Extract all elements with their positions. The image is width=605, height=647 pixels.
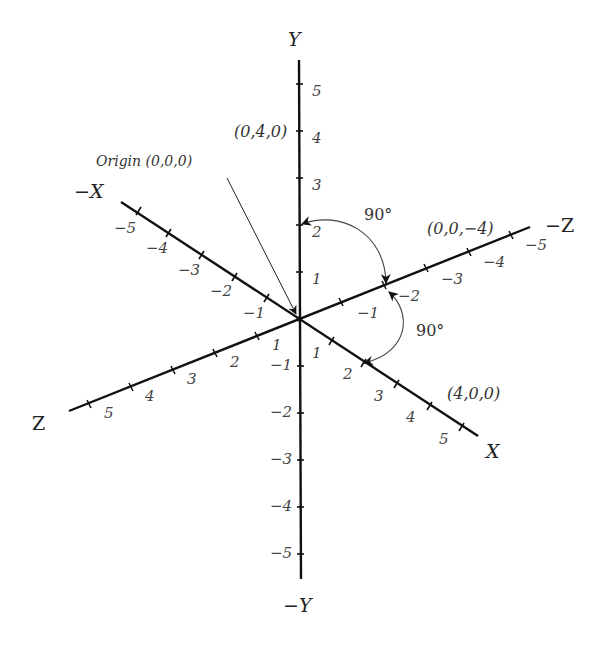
tick-label-z: 4 bbox=[144, 387, 155, 405]
tick-label-neg-y: −2 bbox=[270, 403, 292, 421]
angle-label-1: 90° bbox=[364, 205, 392, 224]
tick-label-y: 2 bbox=[311, 223, 322, 241]
point-label-x4: (4,0,0) bbox=[447, 384, 500, 403]
tick-label-neg-y: −3 bbox=[270, 450, 292, 468]
tick-label-neg-x: −5 bbox=[114, 219, 136, 237]
tick-label-neg-x: −3 bbox=[178, 261, 200, 279]
arc-zneg-to-x bbox=[364, 292, 403, 363]
axis-label-z: Z bbox=[32, 412, 45, 434]
tick-label-neg-z: −1 bbox=[357, 304, 379, 322]
tick-label-neg-x: −1 bbox=[243, 304, 265, 322]
tick-label-x: 2 bbox=[342, 365, 353, 383]
tick-label-x: 3 bbox=[374, 387, 384, 405]
tick-label-x: 1 bbox=[312, 344, 322, 362]
tick-label-y: 3 bbox=[312, 176, 322, 194]
tick-label-neg-z: −5 bbox=[525, 236, 547, 254]
tick-label-neg-z: −4 bbox=[483, 253, 505, 271]
coordinate-diagram: Y −Y X −X Z −Z 1 2 3 4 5 −1 −2 −3 −4 −5 … bbox=[0, 0, 605, 647]
axis-label-x: X bbox=[484, 440, 501, 462]
tick-label-z: 3 bbox=[187, 370, 197, 388]
point-label-zneg4: (0,0,−4) bbox=[427, 219, 494, 238]
tick-label-x: 4 bbox=[405, 408, 416, 426]
tick-label-neg-x: −2 bbox=[210, 282, 232, 300]
tick-label-y: 4 bbox=[311, 129, 322, 147]
tick-label-neg-z: −2 bbox=[398, 287, 420, 305]
tick-label-z: 5 bbox=[104, 404, 114, 422]
angle-arcs bbox=[302, 220, 403, 363]
tick-label-z: 1 bbox=[272, 336, 282, 354]
point-markers bbox=[297, 317, 302, 322]
angle-label-2: 90° bbox=[416, 321, 444, 340]
tick-label-neg-y: −1 bbox=[270, 356, 292, 374]
origin-label: Origin (0,0,0) bbox=[96, 153, 192, 169]
point-label-y4: (0,4,0) bbox=[234, 122, 287, 141]
tick-label-neg-x: −4 bbox=[146, 239, 168, 257]
tick-label-neg-y: −4 bbox=[270, 497, 292, 515]
tick-label-y: 5 bbox=[312, 82, 322, 100]
tick-label-y: 1 bbox=[312, 270, 322, 288]
tick-label-x: 5 bbox=[439, 430, 449, 448]
tick-label-neg-y: −5 bbox=[270, 544, 292, 562]
tick-label-z: 2 bbox=[229, 353, 240, 371]
axis-label-neg-x: −X bbox=[74, 180, 105, 202]
axis-label-neg-z: −Z bbox=[545, 214, 574, 236]
axis-label-y: Y bbox=[288, 28, 303, 50]
axis-label-neg-y: −Y bbox=[283, 594, 314, 616]
tick-label-neg-z: −3 bbox=[441, 270, 463, 288]
